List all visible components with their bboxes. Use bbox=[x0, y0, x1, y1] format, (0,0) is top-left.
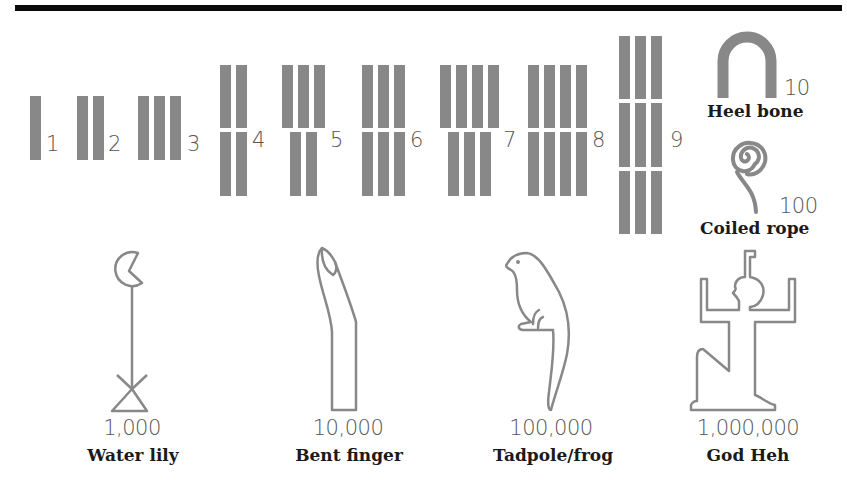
numeral-value: 5 bbox=[330, 130, 343, 151]
stroke-icon bbox=[440, 65, 451, 128]
stroke-icon bbox=[170, 96, 181, 160]
glyph-name: Bent finger bbox=[295, 447, 403, 464]
stroke-icon bbox=[544, 132, 555, 196]
god-heh-icon bbox=[689, 249, 807, 411]
stroke-icon bbox=[635, 36, 646, 99]
numeral-value: 9 bbox=[670, 130, 683, 151]
bent-finger-icon bbox=[313, 244, 361, 412]
stroke-icon bbox=[560, 65, 571, 128]
numeral-value: 4 bbox=[252, 130, 265, 151]
stroke-icon bbox=[528, 132, 539, 196]
stroke-icon bbox=[619, 36, 630, 99]
stroke-icon bbox=[480, 132, 491, 196]
top-rule bbox=[15, 5, 842, 11]
numeral-value: 1,000,000 bbox=[697, 418, 799, 439]
stroke-icon bbox=[464, 132, 475, 196]
glyph-name: Heel bone bbox=[707, 103, 803, 120]
stroke-icon bbox=[576, 65, 587, 128]
stroke-icon bbox=[456, 65, 467, 128]
stroke-icon bbox=[488, 65, 499, 128]
numeral-value: 100,000 bbox=[509, 418, 592, 439]
stroke-icon bbox=[236, 132, 247, 196]
stroke-icon bbox=[544, 65, 555, 128]
stroke-icon bbox=[220, 132, 231, 196]
stroke-icon bbox=[362, 65, 373, 128]
numeral-value: 100 bbox=[779, 196, 818, 217]
stroke-icon bbox=[236, 65, 247, 128]
glyph-name: Water lily bbox=[87, 447, 178, 464]
glyph-name: Coiled rope bbox=[700, 220, 809, 237]
stroke-icon bbox=[298, 65, 309, 128]
glyph-name: Tadpole/frog bbox=[493, 447, 613, 464]
stroke-icon bbox=[220, 65, 231, 128]
heel-bone-icon bbox=[718, 34, 776, 98]
tadpole-frog-icon bbox=[505, 250, 575, 412]
stroke-icon bbox=[394, 132, 405, 196]
numeral-value: 2 bbox=[108, 134, 121, 155]
stroke-icon bbox=[651, 171, 662, 234]
numeral-value: 1,000 bbox=[103, 418, 161, 439]
stroke-icon bbox=[651, 103, 662, 167]
numeral-value: 3 bbox=[187, 134, 200, 155]
numeral-value: 6 bbox=[410, 130, 423, 151]
stroke-icon bbox=[635, 103, 646, 167]
stroke-icon bbox=[77, 96, 88, 160]
stroke-icon bbox=[576, 132, 587, 196]
stroke-icon bbox=[560, 132, 571, 196]
numeral-value: 1 bbox=[46, 134, 59, 155]
stroke-icon bbox=[378, 65, 389, 128]
glyph-name: God Heh bbox=[707, 447, 790, 464]
stroke-icon bbox=[394, 65, 405, 128]
stroke-icon bbox=[154, 96, 165, 160]
stroke-icon bbox=[528, 65, 539, 128]
stroke-icon bbox=[314, 65, 325, 128]
stroke-icon bbox=[30, 96, 41, 160]
stroke-icon bbox=[472, 65, 483, 128]
stroke-icon bbox=[635, 171, 646, 234]
stroke-icon bbox=[378, 132, 389, 196]
stroke-icon bbox=[362, 132, 373, 196]
stroke-icon bbox=[138, 96, 149, 160]
stroke-icon bbox=[93, 96, 104, 160]
stroke-icon bbox=[619, 171, 630, 234]
stroke-icon bbox=[282, 65, 293, 128]
stroke-icon bbox=[651, 36, 662, 99]
water-lily-icon bbox=[105, 245, 160, 413]
coiled-rope-icon bbox=[727, 140, 772, 214]
stroke-icon bbox=[290, 132, 301, 196]
numeral-value: 7 bbox=[503, 130, 516, 151]
stroke-icon bbox=[306, 132, 317, 196]
stroke-icon bbox=[448, 132, 459, 196]
stroke-icon bbox=[619, 103, 630, 167]
numeral-value: 8 bbox=[592, 130, 605, 151]
numeral-value: 10,000 bbox=[313, 418, 383, 439]
numeral-value: 10 bbox=[784, 78, 810, 99]
